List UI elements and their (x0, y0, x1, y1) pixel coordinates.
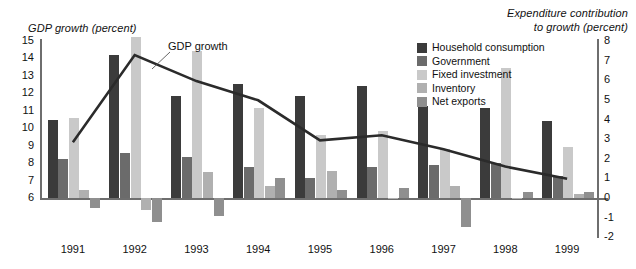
bar-1993-inventory (203, 172, 213, 198)
bar-1998-government (491, 163, 501, 198)
left-tick-11: 11 (14, 105, 34, 116)
right-tick-5: 5 (604, 94, 624, 105)
left-tick-8: 8 (14, 157, 34, 168)
bar-1991-household-consumption (48, 120, 58, 199)
bar-1993-household-consumption (171, 96, 181, 198)
left-tick-14: 14 (14, 52, 34, 63)
bar-1991-fixed-investment (69, 118, 79, 198)
bar-1994-fixed-investment (254, 108, 264, 198)
bar-1996-government (367, 167, 377, 198)
bar-1997-government (429, 165, 439, 198)
legend-item-fixed-investment: Fixed investment (417, 68, 545, 82)
left-axis-title: GDP growth (percent) (28, 22, 137, 34)
x-label-1998: 1998 (475, 243, 535, 255)
legend-item-government: Government (417, 55, 545, 69)
bar-1992-government (120, 153, 130, 198)
bar-1995-fixed-investment (316, 135, 326, 198)
bar-group-1996 (357, 36, 409, 238)
bar-1997-net-exports (461, 198, 471, 227)
right-tick-0: 0 (604, 192, 624, 203)
right-axis-title-line2: to growth (percent) (507, 20, 628, 34)
x-label-1994: 1994 (228, 243, 288, 255)
bar-1995-net-exports (337, 190, 347, 198)
legend-item-net-exports: Net exports (417, 95, 545, 109)
legend-label: Household consumption (432, 42, 545, 53)
bar-1999-inventory (574, 194, 584, 198)
bar-1994-government (244, 167, 254, 198)
x-label-1993: 1993 (166, 243, 226, 255)
legend-label: Government (432, 56, 490, 67)
bar-1997-inventory (450, 186, 460, 198)
bar-group-1991 (48, 36, 100, 238)
bar-1998-household-consumption (480, 108, 490, 198)
bar-1991-net-exports (90, 198, 100, 208)
right-tick-6: 6 (604, 74, 624, 85)
legend: Household consumptionGovernmentFixed inv… (417, 41, 545, 109)
bar-1999-government (553, 176, 563, 198)
bar-1993-government (182, 157, 192, 198)
bar-1996-inventory (388, 198, 398, 199)
right-tick-4: 4 (604, 114, 624, 125)
bar-1992-net-exports (152, 198, 162, 222)
bar-1991-government (58, 159, 68, 198)
left-tick-10: 10 (14, 122, 34, 133)
bar-1995-government (305, 178, 315, 198)
legend-label: Fixed investment (432, 69, 511, 80)
left-tick-7: 7 (14, 175, 34, 186)
x-label-1995: 1995 (290, 243, 350, 255)
legend-swatch-icon (417, 56, 427, 66)
chart-figure: GDP growth (percent) Expenditure contrib… (0, 0, 636, 269)
bar-group-1999 (542, 36, 594, 238)
bar-group-1993 (171, 36, 223, 238)
bar-1999-net-exports (584, 192, 594, 198)
bar-1994-household-consumption (233, 84, 243, 198)
right-tick-neg1: -1 (604, 212, 624, 223)
x-label-1999: 1999 (537, 243, 597, 255)
legend-item-inventory: Inventory (417, 82, 545, 96)
right-tick-1: 1 (604, 172, 624, 183)
left-tick-13: 13 (14, 70, 34, 81)
right-tick-neg2: -2 (604, 231, 624, 242)
legend-label: Inventory (432, 83, 475, 94)
legend-item-household-consumption: Household consumption (417, 41, 545, 55)
gdp-growth-line-label: GDP growth (168, 40, 228, 52)
right-axis-title-line1: Expenditure contribution (507, 6, 628, 20)
bar-1996-fixed-investment (378, 131, 388, 198)
bar-1996-net-exports (399, 188, 409, 198)
bar-1992-fixed-investment (131, 37, 141, 198)
bar-group-1992 (109, 36, 161, 238)
bar-1997-fixed-investment (440, 149, 450, 198)
right-axis-title: Expenditure contribution to growth (perc… (507, 6, 628, 34)
legend-swatch-icon (417, 43, 427, 53)
left-tick-12: 12 (14, 87, 34, 98)
right-tick-7: 7 (604, 55, 624, 66)
left-tick-6: 6 (14, 192, 34, 203)
bar-1993-net-exports (214, 198, 224, 216)
bar-group-1994 (233, 36, 285, 238)
right-tick-2: 2 (604, 153, 624, 164)
bar-1992-inventory (141, 198, 151, 210)
legend-swatch-icon (417, 83, 427, 93)
bar-1995-household-consumption (295, 96, 305, 198)
bar-1997-household-consumption (418, 106, 428, 198)
bar-1999-fixed-investment (563, 147, 573, 198)
bar-1999-household-consumption (542, 121, 552, 198)
bar-1998-net-exports (523, 192, 533, 198)
left-tick-9: 9 (14, 140, 34, 151)
bar-1994-net-exports (275, 178, 285, 198)
bar-1994-inventory (265, 186, 275, 198)
right-tick-3: 3 (604, 133, 624, 144)
x-label-1997: 1997 (414, 243, 474, 255)
bar-1991-inventory (79, 190, 89, 198)
x-label-1996: 1996 (352, 243, 412, 255)
bar-1996-household-consumption (357, 86, 367, 198)
bar-1998-inventory (512, 198, 522, 199)
legend-swatch-icon (417, 70, 427, 80)
bar-1992-household-consumption (109, 55, 119, 198)
legend-swatch-icon (417, 97, 427, 107)
bar-1995-inventory (327, 171, 337, 198)
right-tick-8: 8 (604, 35, 624, 46)
legend-label: Net exports (432, 96, 486, 107)
left-tick-15: 15 (14, 35, 34, 46)
bar-group-1995 (295, 36, 347, 238)
